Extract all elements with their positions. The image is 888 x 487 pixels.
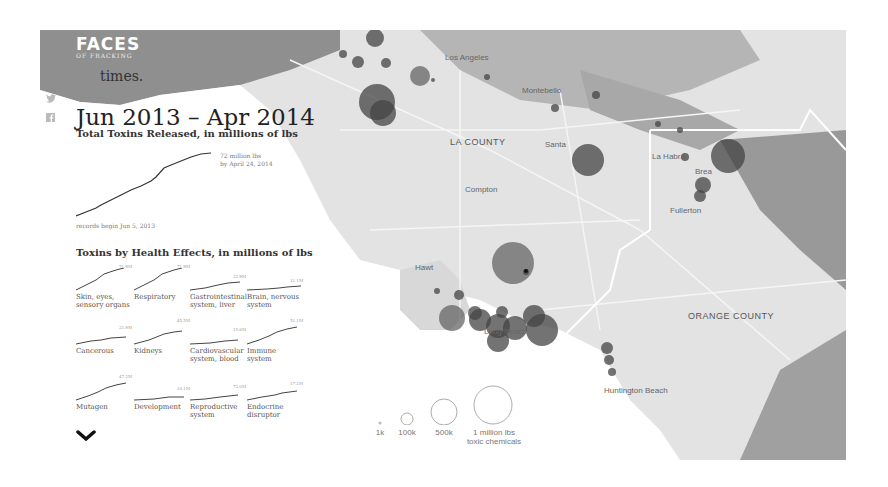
city-label-fullerton: Fullerton xyxy=(670,206,701,215)
county-label-la: LA COUNTY xyxy=(450,137,506,147)
legend-circles xyxy=(370,385,540,425)
county-label-orange: ORANGE COUNTY xyxy=(688,311,774,321)
city-label-huntington-beach: Huntington Beach xyxy=(604,386,668,395)
city-label-brea: Brea xyxy=(695,167,712,176)
city-label-hawthorne: Hawt xyxy=(415,263,433,272)
city-label-la-habra: La Habra xyxy=(652,152,685,161)
city-label-los-angeles: Los Angeles xyxy=(445,53,489,62)
legend-label-100k: 100k xyxy=(394,428,420,437)
city-label-long-beach: Long Beach xyxy=(484,327,527,336)
chevron-down-icon[interactable] xyxy=(76,430,96,442)
city-label-montebello: Montebello xyxy=(522,86,561,95)
logo-title[interactable]: FACES xyxy=(76,36,140,52)
legend-label-1m: 1 million lbs toxic chemicals xyxy=(463,428,525,446)
city-label-compton: Compton xyxy=(465,185,497,194)
city-label-santa-fe-springs: Santa xyxy=(545,140,566,149)
ocean xyxy=(40,85,680,460)
legend-label-500k: 500k xyxy=(430,428,458,437)
legend-label-1k: 1k xyxy=(372,428,388,437)
bubble-size-legend: 1k 100k 500k 1 million lbs toxic chemica… xyxy=(370,385,540,445)
